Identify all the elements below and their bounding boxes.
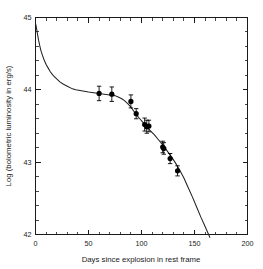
- data-point: [168, 156, 173, 161]
- data-point: [134, 111, 139, 116]
- data-point: [161, 146, 166, 151]
- error-bars: [97, 86, 180, 176]
- x-tick-label: 50: [85, 239, 93, 248]
- data-point: [97, 91, 102, 96]
- x-tick-label: 150: [189, 239, 201, 248]
- y-tick-labels: 42434445: [24, 13, 32, 239]
- x-tick-label: 0: [34, 239, 38, 248]
- y-tick-label: 44: [24, 85, 32, 94]
- x-axis-title: Days since explosion in rest frame: [82, 255, 201, 264]
- y-tick-label: 43: [24, 158, 32, 167]
- data-points: [97, 91, 181, 174]
- figure-container: 050100150200 42434445 Days since explosi…: [0, 0, 263, 269]
- plot-frame: [36, 18, 248, 235]
- major-ticks: [36, 18, 248, 235]
- data-point: [146, 123, 151, 128]
- y-tick-label: 45: [24, 13, 32, 22]
- bolometric-light-curve-chart: 050100150200 42434445 Days since explosi…: [0, 0, 263, 269]
- y-tick-label: 42: [24, 230, 32, 239]
- data-point: [109, 92, 114, 97]
- model-light-curve: [36, 23, 210, 237]
- x-tick-label: 200: [242, 239, 254, 248]
- data-point: [128, 99, 133, 104]
- minor-ticks: [36, 18, 248, 235]
- y-axis-title: Log (bolometric luminosity in erg/s): [4, 65, 13, 186]
- data-point: [175, 168, 180, 173]
- x-tick-labels: 050100150200: [34, 239, 254, 248]
- x-tick-label: 100: [136, 239, 148, 248]
